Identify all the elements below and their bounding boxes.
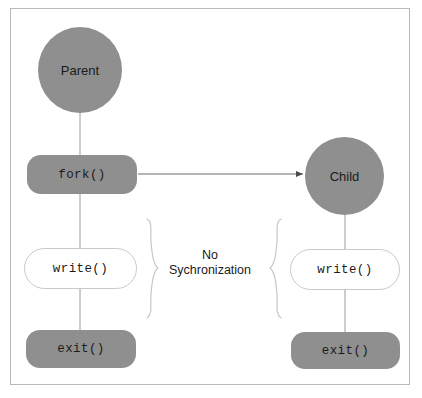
node-parent-label: Parent	[61, 63, 99, 78]
caption-line-2: Sychronization	[163, 263, 257, 278]
node-exit-parent-label: exit()	[57, 342, 104, 356]
node-parent[interactable]: Parent	[38, 27, 122, 113]
node-fork-label: fork()	[58, 168, 105, 182]
node-exit-parent[interactable]: exit()	[26, 330, 136, 368]
no-synchronization-caption: No Sychronization	[163, 248, 257, 278]
node-write-child[interactable]: write()	[290, 249, 400, 290]
node-exit-child-label: exit()	[322, 344, 369, 358]
node-fork[interactable]: fork()	[27, 155, 137, 194]
caption-line-1: No	[163, 248, 257, 263]
node-child[interactable]: Child	[305, 137, 384, 215]
node-exit-child[interactable]: exit()	[291, 332, 400, 369]
node-write-child-label: write()	[317, 263, 372, 277]
node-child-label: Child	[330, 169, 360, 184]
process-fork-diagram: Parent fork() write() exit() Child write…	[0, 0, 422, 398]
node-write-parent-label: write()	[53, 262, 108, 276]
node-write-parent[interactable]: write()	[24, 248, 137, 289]
